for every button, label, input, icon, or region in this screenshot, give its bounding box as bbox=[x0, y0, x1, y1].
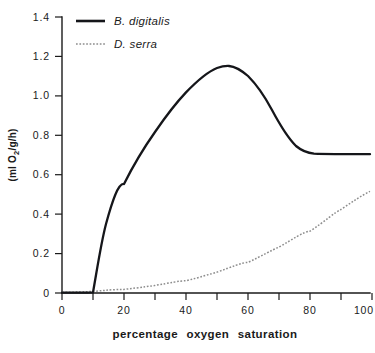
chart-legend: B. digitalis D. serra bbox=[76, 15, 170, 50]
y-tick-label-0-4: 0.4 bbox=[33, 208, 50, 220]
y-tick-label-0: 0 bbox=[43, 287, 50, 299]
chart-container: 0 0.2 0.4 0.6 0.8 1.0 1.2 1.4 0 20 40 60 bbox=[0, 0, 375, 353]
series-line-d-serra bbox=[62, 191, 370, 292]
y-axis-title: (ml O2/g/h) bbox=[7, 128, 21, 181]
legend-label-b-digitalis: B. digitalis bbox=[114, 15, 170, 27]
y-tick-label-0-2: 0.2 bbox=[33, 247, 50, 259]
x-tick-label-100: 100 bbox=[354, 304, 374, 316]
y-axis-title-pre: (ml O bbox=[7, 155, 18, 182]
series-line-b-digitalis bbox=[62, 66, 370, 293]
x-tick-label-40: 40 bbox=[179, 304, 192, 316]
x-axis-minor-ticks bbox=[93, 293, 341, 300]
x-tick-label-0: 0 bbox=[59, 304, 66, 316]
x-tick-label-60: 60 bbox=[241, 304, 254, 316]
oxygen-consumption-line-chart: 0 0.2 0.4 0.6 0.8 1.0 1.2 1.4 0 20 40 60 bbox=[0, 0, 375, 353]
y-axis-ticks bbox=[55, 17, 62, 293]
y-tick-label-1-4: 1.4 bbox=[33, 11, 50, 23]
y-tick-label-0-8: 0.8 bbox=[33, 129, 50, 141]
y-tick-label-0-6: 0.6 bbox=[33, 168, 50, 180]
x-tick-label-80: 80 bbox=[303, 304, 316, 316]
x-axis-title: percentage oxygen saturation bbox=[113, 328, 298, 340]
y-tick-label-1-2: 1.2 bbox=[33, 50, 50, 62]
legend-label-d-serra: D. serra bbox=[114, 38, 157, 50]
y-axis-title-post: /g/h) bbox=[7, 128, 18, 150]
x-tick-label-20: 20 bbox=[117, 304, 130, 316]
y-tick-label-1-0: 1.0 bbox=[33, 89, 50, 101]
